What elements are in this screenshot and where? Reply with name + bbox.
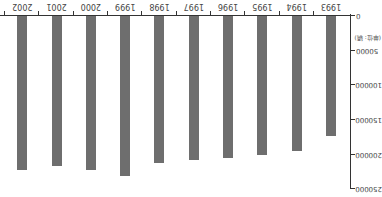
bar-chart: (单位: 辆) 050000100000150000200000250000 1… [0, 0, 382, 197]
y-tick [350, 119, 355, 120]
bar-1996 [223, 16, 233, 158]
x-tick [38, 11, 39, 16]
x-tick-label: 1997 [177, 2, 211, 11]
x-tick [73, 11, 74, 16]
bar-2000 [86, 16, 96, 170]
y-tick [350, 154, 355, 155]
x-tick [210, 11, 211, 16]
x-tick [4, 11, 5, 16]
x-tick-label: 1995 [245, 2, 279, 11]
x-tick [244, 11, 245, 16]
x-tick [279, 11, 280, 16]
y-tick [350, 50, 355, 51]
x-tick-label: 1993 [314, 2, 348, 11]
y-tick-label: 200000 [356, 151, 382, 159]
bar-1995 [257, 16, 267, 155]
y-tick-label: 150000 [356, 116, 382, 124]
x-tick [107, 11, 108, 16]
bar-1997 [189, 16, 199, 160]
y-tick-label: 250000 [356, 186, 382, 194]
x-tick-label: 2001 [40, 2, 74, 11]
y-axis-unit-label: (单位: 辆) [354, 34, 381, 43]
bar-2001 [52, 16, 62, 166]
bar-1993 [326, 16, 336, 136]
x-tick-label: 1999 [108, 2, 142, 11]
y-tick [350, 84, 355, 85]
y-tick [350, 15, 355, 16]
x-tick-label: 1996 [211, 2, 245, 11]
bar-2002 [17, 16, 27, 170]
x-tick-label: 1994 [280, 2, 314, 11]
y-tick-label: 0 [356, 12, 382, 20]
x-tick [141, 11, 142, 16]
x-tick-label: 2000 [74, 2, 108, 11]
y-tick-label: 50000 [356, 47, 382, 55]
bar-1999 [120, 16, 130, 176]
x-tick [176, 11, 177, 16]
bar-1994 [292, 16, 302, 151]
y-axis [350, 14, 351, 189]
y-tick [350, 189, 355, 190]
x-tick-label: 2002 [5, 2, 39, 11]
x-tick [313, 11, 314, 16]
y-tick-label: 100000 [356, 81, 382, 89]
x-tick-label: 1998 [143, 2, 177, 11]
bar-1998 [155, 16, 165, 163]
